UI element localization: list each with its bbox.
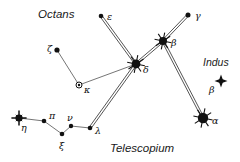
figure-line-beta-pav-alpha-pav-1 [164,40,204,117]
figure-line-epsilon-pav-delta-pav-0 [100,17,135,65]
star-eta-pav-icon [15,114,22,121]
star-delta-pav-icon [132,60,141,69]
star-gamma-pav-icon [186,13,191,18]
star-label-gamma-pav: γ [195,10,201,21]
figure-line-epsilon-pav-delta-pav-1 [102,15,137,63]
star-beta-pav-icon [159,37,167,45]
star-beta-ind-core [219,79,223,83]
star-nu-pav-icon [69,124,73,128]
star-label-beta-ind: β [208,84,215,95]
star-label-eta-pav: η [21,122,27,133]
faint-line-pi-pav-xi-pav [44,121,62,134]
star-label-delta-pav: δ [143,64,149,75]
constellation-label-indus: Indus [203,56,229,68]
star-label-alpha-pav: α [212,115,219,126]
star-xi-pav-icon [60,132,65,137]
constellation-label-telescopium: Telescopium [110,142,175,154]
constellation-label-octans: Octans [38,8,75,20]
figure-line-delta-pav-lambda-pav-1 [91,65,137,129]
star-label-epsilon-pav: ε [107,11,112,22]
faint-line-zeta-pav-kappa-pav [57,50,79,85]
star-pi-pav-icon [42,119,47,124]
sky-map-canvas: εγβδζκηπξνλαβOctansIndusTelescopium [0,0,240,162]
star-zeta-pav-icon [54,47,59,52]
variable-star-kappa-pav-core [78,84,80,86]
star-label-pi-pav: π [48,110,56,121]
star-label-lambda-pav: λ [94,125,101,136]
star-chart: εγβδζκηπξνλαβOctansIndusTelescopium [0,0,240,162]
star-label-xi-pav: ξ [59,140,65,151]
star-alpha-pav-icon [198,113,208,123]
star-label-nu-pav: ν [67,112,73,123]
star-lambda-pav-icon [88,126,93,131]
figure-line-beta-pav-alpha-pav-0 [162,42,202,119]
star-epsilon-pav-icon [99,14,104,19]
faint-line-nu-pav-lambda-pav [71,126,90,128]
star-label-kappa-pav: κ [83,84,91,95]
star-label-beta-pav: β [170,37,177,48]
star-label-zeta-pav: ζ [47,43,53,54]
